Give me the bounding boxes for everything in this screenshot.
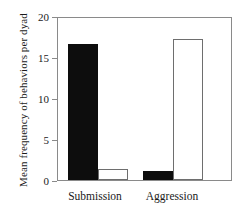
plot-area (57, 17, 232, 181)
y-tick-mark-0 (52, 181, 57, 182)
bar-aggression-filled (143, 171, 173, 180)
bar-submission-filled (68, 44, 98, 180)
x-category-label-submission: Submission (62, 189, 128, 203)
y-tick-label-10: 10 (9, 94, 49, 105)
y-tick-label-20: 20 (9, 12, 49, 23)
y-tick-label-5: 5 (9, 135, 49, 146)
bar-submission-open (98, 169, 128, 180)
x-category-label-aggression: Aggression (139, 189, 205, 203)
bar-aggression-open (173, 39, 203, 180)
y-tick-label-15: 15 (9, 53, 49, 64)
y-tick-label-0: 0 (9, 176, 49, 187)
bar-chart-figure: Mean frequency of behaviors per dyad 20 … (0, 0, 242, 212)
plot-inner (58, 18, 231, 180)
